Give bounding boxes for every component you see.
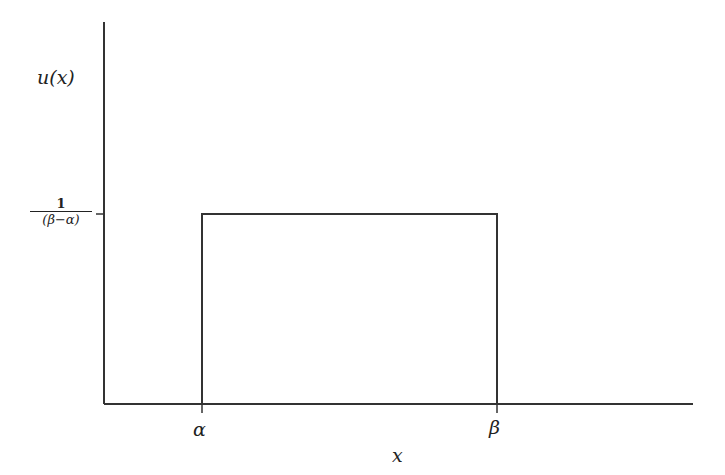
uniform-density-curve: [202, 214, 497, 404]
alpha-label: α: [193, 418, 206, 440]
y-tick-numerator: 1: [30, 197, 92, 212]
beta-label: β: [489, 416, 500, 438]
y-tick-label: 1 (β−α): [30, 197, 92, 228]
x-axis-label: x: [392, 444, 403, 466]
y-axis-label: u(x): [37, 66, 75, 88]
y-tick-denominator: (β−α): [30, 212, 92, 228]
plot-area: [0, 0, 725, 475]
